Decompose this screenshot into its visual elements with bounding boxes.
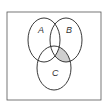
venn-diagram: A B C: [0, 0, 107, 106]
label-c: C: [52, 68, 59, 78]
label-a: A: [37, 25, 44, 35]
label-b: B: [66, 25, 72, 35]
